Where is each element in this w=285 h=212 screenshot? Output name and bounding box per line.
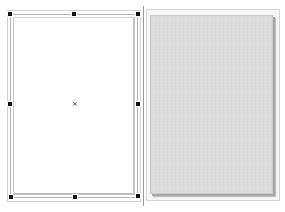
preview-page: [150, 15, 273, 194]
handle-bottom-left[interactable]: [8, 194, 14, 200]
handle-top-right[interactable]: [135, 11, 141, 17]
handle-top-left[interactable]: [7, 11, 13, 17]
layout-canvas: ×: [0, 0, 285, 212]
handle-middle-right[interactable]: [135, 101, 141, 107]
handle-top-middle[interactable]: [71, 11, 77, 17]
center-cross-icon: ×: [72, 101, 78, 107]
handle-middle-left[interactable]: [7, 101, 13, 107]
handle-bottom-right[interactable]: [135, 193, 141, 199]
handle-bottom-middle[interactable]: [72, 194, 78, 200]
panel-divider[interactable]: [143, 6, 144, 206]
